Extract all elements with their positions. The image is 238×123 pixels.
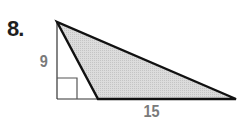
base-label: 15 xyxy=(143,102,159,122)
height-label: 9 xyxy=(40,52,48,72)
right-angle-marker xyxy=(57,78,77,99)
triangle-figure xyxy=(0,0,238,123)
